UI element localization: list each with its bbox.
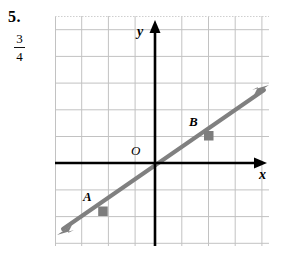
x-axis-label: x [258,167,266,182]
fraction-numerator: 3 [14,32,25,46]
y-axis-arrow [150,20,161,33]
problem-number: 5. [8,8,50,26]
fraction-denominator: 4 [14,49,25,63]
origin-label: O [131,143,141,158]
point-b-label: B [188,114,198,129]
point-b-marker [204,131,214,141]
coordinate-graph: y x O A B [55,16,269,246]
point-a-marker [98,207,108,217]
answer-fraction: 3 4 [14,32,25,63]
plotted-line [57,85,269,235]
point-a-label: A [82,189,92,204]
fraction-bar [14,47,25,48]
y-axis-label: y [135,24,144,39]
problem-label: 5. 3 4 [8,8,50,65]
